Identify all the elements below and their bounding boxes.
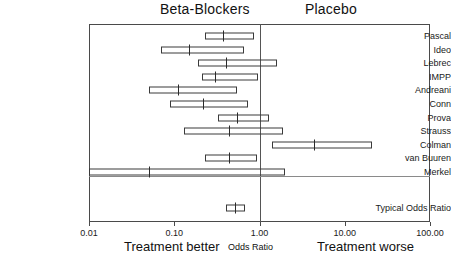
study-label: van Buuren — [365, 153, 451, 163]
study-label: Colman — [365, 140, 451, 150]
point-estimate-marker — [235, 203, 236, 214]
point-estimate-marker — [229, 153, 230, 164]
confidence-interval-box — [202, 73, 258, 80]
confidence-interval-box — [205, 155, 257, 162]
study-label: Merkel — [365, 167, 451, 177]
study-label: Strauss — [365, 126, 451, 136]
point-estimate-marker — [189, 44, 190, 55]
confidence-interval-box — [184, 128, 283, 135]
confidence-interval-box — [170, 101, 247, 108]
confidence-interval-box — [161, 46, 244, 53]
axis-title: Odds Ratio — [228, 242, 273, 252]
axis-tick-label: 100.00 — [416, 228, 444, 238]
study-label: Lebrec — [365, 58, 451, 68]
confidence-interval-box — [149, 87, 238, 94]
axis-note-better: Treatment better — [124, 239, 220, 254]
forest-plot: Beta-Blockers Placebo PascalIdeoLebrecIM… — [0, 0, 451, 262]
group-header-right: Placebo — [305, 1, 357, 17]
point-estimate-marker — [237, 112, 238, 123]
axis-tick-label: 0.01 — [80, 228, 98, 238]
axis-tick-mark — [345, 222, 346, 226]
point-estimate-marker — [215, 71, 216, 82]
confidence-interval-box — [89, 169, 285, 176]
study-label: Pascal — [365, 31, 451, 41]
study-label: Andreani — [365, 85, 451, 95]
point-estimate-marker — [229, 126, 230, 137]
point-estimate-marker — [226, 58, 227, 69]
axis-tick-label: 1.00 — [251, 228, 269, 238]
confidence-interval-box — [272, 141, 372, 148]
group-header-left: Beta-Blockers — [160, 1, 250, 17]
axis-tick-mark — [260, 222, 261, 226]
axis-note-worse: Treatment worse — [317, 239, 414, 254]
study-label: Typical Odds Ratio — [365, 203, 451, 213]
point-estimate-marker — [178, 85, 179, 96]
axis-tick-label: 10.00 — [333, 228, 356, 238]
axis-tick-mark — [430, 222, 431, 226]
confidence-interval-box — [198, 60, 277, 67]
confidence-interval-box — [218, 114, 269, 121]
point-estimate-marker — [223, 31, 224, 42]
study-label: Prova — [365, 113, 451, 123]
point-estimate-marker — [314, 139, 315, 150]
axis-tick-mark — [174, 222, 175, 226]
study-label: Ideo — [365, 45, 451, 55]
axis-tick-mark — [89, 222, 90, 226]
axis-tick-label: 0.10 — [165, 228, 183, 238]
study-label: IMPP — [365, 72, 451, 82]
point-estimate-marker — [149, 167, 150, 178]
null-reference-line — [260, 24, 261, 222]
point-estimate-marker — [203, 99, 204, 110]
study-label: Conn — [365, 99, 451, 109]
confidence-interval-box — [205, 33, 254, 40]
